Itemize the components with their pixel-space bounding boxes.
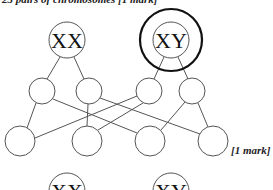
offspring-circle-2 <box>72 126 102 156</box>
mark-label: [1 mark] <box>231 144 270 156</box>
line-g2-o2 <box>87 104 88 126</box>
next-parent-xy: XY <box>153 173 189 190</box>
parent-father: XY <box>153 22 189 58</box>
line-g4-o4 <box>198 103 208 127</box>
parent-mother: XX <box>49 22 85 58</box>
gamete-circle-2 <box>76 78 102 104</box>
gamete-circle-1 <box>29 78 55 104</box>
offspring-circle-1 <box>5 126 35 156</box>
line-g1-o1 <box>27 103 36 128</box>
gamete-circle-4 <box>179 78 205 104</box>
line-mother-g2 <box>74 57 84 79</box>
inheritance-diagram: XX XY XX XY <box>0 0 273 190</box>
next-xy-label: XY <box>155 179 187 190</box>
father-label: XY <box>155 28 187 53</box>
offspring-circle-4 <box>198 126 228 156</box>
offspring-circle-3 <box>135 126 165 156</box>
next-parent-xx: XX <box>49 173 85 190</box>
next-xx-label: XX <box>51 179 83 190</box>
mother-label: XX <box>51 28 83 53</box>
line-g4-o3 <box>161 102 185 130</box>
gamete-circle-3 <box>136 78 162 104</box>
line-mother-g1 <box>47 57 60 79</box>
